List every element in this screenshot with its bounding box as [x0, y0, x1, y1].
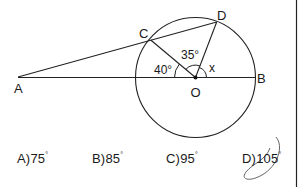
label-a: A: [14, 81, 23, 96]
option-letter: C): [166, 151, 180, 166]
option-value: 95: [180, 151, 195, 166]
angle-arc-dob: [199, 68, 206, 78]
label-b: B: [257, 71, 266, 86]
label-o: O: [191, 85, 201, 100]
angle-label-cod: 35°: [181, 48, 199, 62]
option-d[interactable]: D)105°: [242, 151, 281, 166]
label-d: D: [217, 8, 226, 23]
option-unit: °: [120, 151, 123, 158]
option-c[interactable]: C)95°: [166, 151, 198, 166]
option-unit: °: [195, 151, 198, 158]
option-b[interactable]: B)85°: [92, 151, 123, 166]
option-unit: °: [45, 151, 48, 158]
answer-options: A)75° B)85° C)95° D)105°: [0, 151, 296, 171]
option-letter: D): [242, 151, 256, 166]
angle-arc-cod: [186, 65, 200, 69]
angle-label-aoc: 40°: [154, 63, 172, 77]
option-value: 105: [256, 151, 278, 166]
option-value: 75: [30, 151, 45, 166]
option-unit: °: [278, 151, 281, 158]
center-point-o: [194, 76, 198, 80]
angle-arc-aoc: [175, 64, 180, 78]
option-a[interactable]: A)75°: [17, 151, 48, 166]
angle-label-dob: x: [209, 61, 215, 75]
option-letter: B): [92, 151, 105, 166]
label-c: C: [139, 26, 148, 41]
option-value: 85: [105, 151, 120, 166]
option-letter: A): [17, 151, 30, 166]
